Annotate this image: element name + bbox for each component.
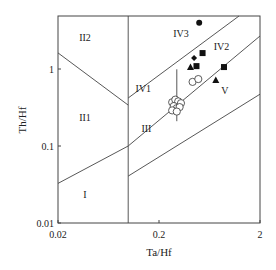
- field-label: IV3: [173, 28, 189, 39]
- y-axis-ticks: 0.010.11: [37, 64, 62, 229]
- y-tick-label: 0.01: [37, 218, 55, 229]
- marker-triangle: [187, 64, 194, 70]
- field-label: V: [221, 85, 229, 96]
- x-tick-label: 0.2: [153, 229, 166, 240]
- marker-square: [221, 64, 227, 70]
- field-label: IV1: [136, 83, 152, 94]
- field-label: II2: [79, 32, 91, 43]
- marker-triangle: [212, 76, 219, 83]
- marker-diamond: [191, 55, 197, 61]
- y-tick-label: 1: [49, 64, 54, 75]
- marker-square: [193, 63, 199, 69]
- field-label: III: [141, 123, 151, 134]
- field-label: II1: [79, 112, 91, 123]
- y-axis-label: Th/Hf: [16, 106, 28, 133]
- boundary-line: [58, 53, 128, 105]
- x-tick-label: 0.02: [49, 229, 67, 240]
- field-label: I: [83, 189, 86, 200]
- marker-square: [200, 50, 206, 56]
- marker-open-circle: [195, 75, 202, 82]
- marker-open-circle: [173, 108, 180, 115]
- field-labels: II2II1IIV3IV2IV1IIIV: [79, 28, 229, 200]
- chart: 0.020.22 0.010.11 II2II1IIV3IV2IV1IIIV T…: [0, 0, 276, 270]
- marker-filled-circle: [196, 20, 202, 26]
- x-tick-label: 2: [258, 229, 263, 240]
- field-label: IV2: [214, 41, 230, 52]
- x-axis-label: Ta/Hf: [146, 246, 172, 258]
- boundary-line: [128, 94, 260, 176]
- y-tick-label: 0.1: [42, 141, 55, 152]
- boundary-line: [58, 36, 260, 183]
